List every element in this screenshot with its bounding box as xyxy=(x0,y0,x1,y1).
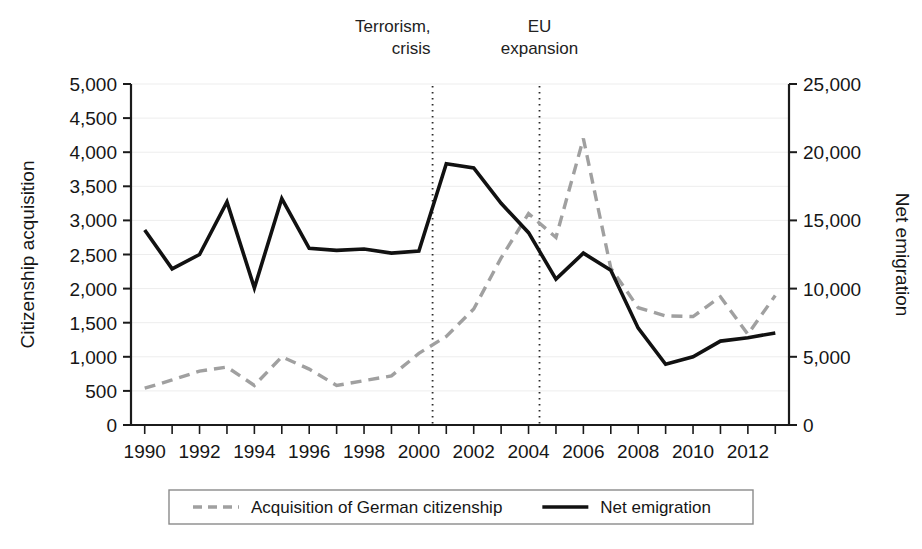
left-axis-tick-label: 0 xyxy=(106,415,117,436)
annotation-label-eu-expansion: EU xyxy=(528,17,552,36)
x-axis-tick-label: 2010 xyxy=(672,441,714,462)
right-axis-tick-label: 5,000 xyxy=(803,347,851,368)
x-axis-tick-label: 1996 xyxy=(288,441,330,462)
x-axis-tick-label: 1990 xyxy=(124,441,166,462)
gridlines xyxy=(131,84,789,391)
left-axis-tick-label: 2,500 xyxy=(69,245,117,266)
left-axis-tick-label: 2,000 xyxy=(69,279,117,300)
legend-label-0: Acquisition of German citizenship xyxy=(251,498,502,517)
x-axis-tick-label: 1994 xyxy=(233,441,276,462)
right-axis-tick-label: 10,000 xyxy=(803,279,861,300)
x-axis-tick-label: 2008 xyxy=(617,441,659,462)
left-axis-tick-label: 1,000 xyxy=(69,347,117,368)
x-axis-tick-label: 2006 xyxy=(562,441,604,462)
left-axis-tick-label: 4,500 xyxy=(69,108,117,129)
right-axis-title: Net emigration xyxy=(892,193,913,317)
annotation-label-terrorism-crisis-line2: crisis xyxy=(392,39,431,58)
left-axis-tick-label: 3,000 xyxy=(69,210,117,231)
series-line-citizenship xyxy=(145,139,776,389)
series-line-net-emigration xyxy=(145,164,776,365)
left-axis-tick-label: 4,000 xyxy=(69,142,117,163)
x-axis-tick-label: 1998 xyxy=(343,441,385,462)
x-axis-tick-label: 2000 xyxy=(398,441,440,462)
left-axis-tick-label: 5,000 xyxy=(69,74,117,95)
line-chart: 05001,0001,5002,0002,5003,0003,5004,0004… xyxy=(0,0,922,549)
legend-label-1: Net emigration xyxy=(600,498,711,517)
x-axis-tick-label: 2002 xyxy=(453,441,495,462)
x-axis-tick-label: 1992 xyxy=(178,441,220,462)
x-axis-tick-label: 2004 xyxy=(507,441,550,462)
chart-figure: 05001,0001,5002,0002,5003,0003,5004,0004… xyxy=(0,0,922,549)
annotation-label-terrorism-crisis: Terrorism, xyxy=(355,17,431,36)
right-axis-tick-label: 20,000 xyxy=(803,142,861,163)
right-axis-tick-label: 15,000 xyxy=(803,210,861,231)
left-axis-tick-label: 1,500 xyxy=(69,313,117,334)
left-axis-tick-label: 3,500 xyxy=(69,176,117,197)
annotation-label-eu-expansion-line2: expansion xyxy=(501,39,579,58)
right-axis-tick-label: 25,000 xyxy=(803,74,861,95)
left-axis-tick-label: 500 xyxy=(85,381,117,402)
left-axis-title: Citizenship acquisition xyxy=(17,161,38,349)
right-axis-tick-label: 0 xyxy=(803,415,814,436)
x-axis-tick-label: 2012 xyxy=(727,441,769,462)
